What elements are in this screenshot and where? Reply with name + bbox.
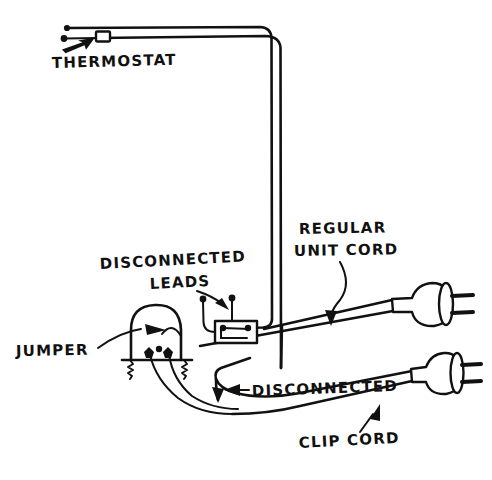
clip-post-right — [163, 347, 173, 358]
disconnected-lead-left-wire — [203, 301, 215, 332]
disconnected-leader-arrowhead — [224, 384, 240, 396]
clip-cord-lead-right — [169, 355, 238, 409]
regular-unit-cord-label-line2: UNIT CORD — [294, 240, 399, 260]
thermostat-block — [96, 32, 110, 42]
switch-box — [215, 321, 257, 343]
jumper-arrow — [145, 324, 181, 336]
thermostat-wire-end-dot-upper — [64, 25, 70, 31]
plug-upper-face — [439, 283, 453, 325]
jumper-label: JUMPER — [15, 341, 89, 360]
regular-unit-cord-label-line1: REGULAR — [299, 218, 387, 238]
clip-assembly — [122, 305, 192, 379]
clip-cord-disconnected-end-tip — [212, 387, 224, 403]
clip-spring-left — [128, 360, 133, 379]
plug-clip-cord — [411, 353, 481, 394]
wiring-diagram: THERMOSTAT REGULAR UNIT CORD — [0, 0, 492, 480]
jumper-arc — [162, 328, 181, 336]
clip-spring-right — [182, 360, 187, 379]
disconnected-leads-label-line2: LEADS — [149, 272, 211, 293]
clip-center-dot — [156, 346, 162, 352]
plug-lower-prong-top — [462, 364, 481, 365]
disconnected-lead-left-dot — [200, 296, 207, 303]
thermostat-wire-pair — [61, 25, 281, 368]
jumper-leader — [98, 329, 141, 348]
disconnected-label: DISCONNECTED — [252, 377, 399, 400]
switch-blade — [223, 328, 250, 329]
regular-unit-cord-leader — [325, 262, 346, 326]
clip-cord-leader — [360, 404, 380, 432]
thermostat-label: THERMOSTAT — [52, 51, 177, 72]
diagram-canvas: THERMOSTAT REGULAR UNIT CORD — [0, 0, 492, 480]
regular-unit-cord-leader-line — [331, 262, 346, 315]
plug-lower-face — [451, 353, 464, 393]
clip-cord-label: CLIP CORD — [298, 429, 400, 452]
clip-cord-leader-arrowhead — [370, 404, 380, 421]
plug-upper-prong-bottom — [452, 312, 473, 313]
plug-upper-prong-top — [452, 295, 473, 296]
disconnected-leads-label-line1: DISCONNECTED — [99, 247, 246, 273]
clip-post-left — [144, 347, 154, 358]
regular-unit-cord-left-tail — [281, 325, 282, 368]
jumper-leader-line — [98, 329, 141, 348]
disconnected-lead-right-dot — [229, 295, 236, 302]
plug-lower-prong-bottom — [462, 381, 481, 382]
thermostat-lower-wire — [98, 36, 281, 368]
plug-regular-unit-cord — [392, 283, 473, 326]
thermostat-body-rect — [96, 32, 110, 42]
